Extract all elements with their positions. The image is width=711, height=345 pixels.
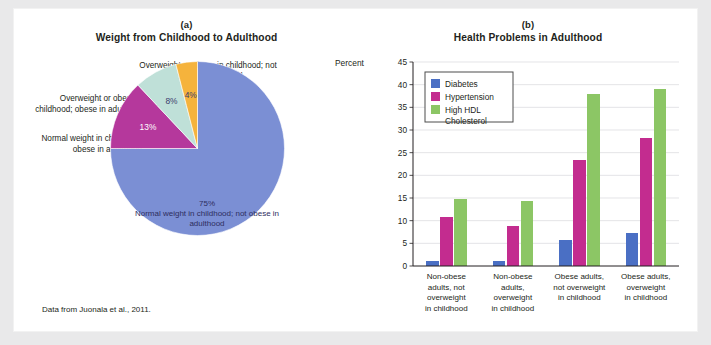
x-category-label: in childhood [558, 293, 601, 302]
x-category-label: overweight [427, 293, 466, 302]
x-category-label: overweight [493, 293, 532, 302]
y-axis-title: Percent [335, 58, 364, 68]
panel-a-title: Weight from Childhood to Adulthood [14, 32, 359, 43]
bar-hypertension-group-1 [440, 217, 453, 266]
bar-high-hdl-cholesterol-group-3 [587, 94, 600, 266]
source-note: Data from Juonala et al., 2011. [42, 305, 151, 314]
y-tick-label: 0 [402, 261, 407, 271]
x-category-label: adults, [501, 283, 525, 292]
bar-high-hdl-cholesterol-group-2 [521, 201, 534, 266]
bar-diabetes-group-1 [426, 261, 439, 266]
pie-slice-value-3: 8% [165, 96, 178, 106]
panel-a-letter: (a) [14, 19, 359, 30]
x-category-label: in childhood [624, 293, 667, 302]
bar-high-hdl-cholesterol-group-4 [654, 89, 667, 266]
x-category-label: in childhood [491, 304, 534, 313]
panel-b-letter: (b) [359, 19, 697, 30]
y-tick-label: 35 [398, 102, 408, 112]
y-tick-label: 25 [398, 148, 408, 158]
x-category-label: Non-obese [427, 272, 467, 281]
panel-a-pie-chart: (a) Weight from Childhood to Adulthood O… [14, 9, 359, 331]
pie-center-percent: 75% [132, 199, 282, 209]
bar-diabetes-group-2 [493, 261, 506, 266]
bar-chart-svg: 051015202530354045 Non-obeseadults, noto… [373, 54, 683, 344]
legend-label-cholesterol: Cholesterol [445, 116, 487, 126]
bar-hypertension-group-4 [640, 138, 653, 266]
bar-high-hdl-cholesterol-group-1 [454, 199, 467, 267]
legend-swatch-diabetes [431, 79, 440, 88]
pie-slice-value-4: 4% [185, 90, 198, 100]
legend-label-hypertension: Hypertension [445, 92, 494, 102]
y-tick-label: 20 [398, 170, 408, 180]
x-category-label: Obese adults, [621, 272, 670, 281]
x-category-label: overweight [626, 283, 665, 292]
pie-center-label: 75% Normal weight in childhood; not obes… [132, 199, 282, 230]
bar-chart: Percent 051015202530354045 Non-obeseadul… [373, 54, 683, 344]
x-category-label: Obese adults, [555, 272, 604, 281]
x-category-label: in childhood [425, 304, 468, 313]
x-category-label: adults, not [428, 283, 466, 292]
bar-diabetes-group-4 [626, 233, 639, 266]
legend-swatch-hypertension [431, 92, 440, 101]
y-tick-label: 45 [398, 57, 408, 67]
bar-hypertension-group-2 [507, 226, 520, 266]
y-tick-label: 5 [402, 238, 407, 248]
bar-hypertension-group-3 [573, 160, 586, 267]
x-category-label: not overweight [553, 283, 606, 292]
legend-label-diabetes: Diabetes [445, 79, 478, 89]
legend-swatch-high-hdl [431, 105, 440, 114]
x-category-label: Non-obese [493, 272, 533, 281]
y-tick-label: 15 [398, 193, 408, 203]
bar-diabetes-group-3 [559, 240, 572, 266]
y-tick-label: 10 [398, 216, 408, 226]
figure-panel: (a) Weight from Childhood to Adulthood O… [14, 9, 697, 331]
legend-label-high-hdl: High HDL [445, 105, 481, 115]
y-tick-label: 30 [398, 125, 408, 135]
panel-b-title: Health Problems in Adulthood [359, 32, 697, 43]
y-tick-label: 40 [398, 80, 408, 90]
panel-b-bar-chart: (b) Health Problems in Adulthood Percent… [359, 9, 697, 331]
pie-center-description: Normal weight in childhood; not obese in… [132, 209, 282, 229]
pie-slice-value-2: 13% [140, 122, 157, 132]
